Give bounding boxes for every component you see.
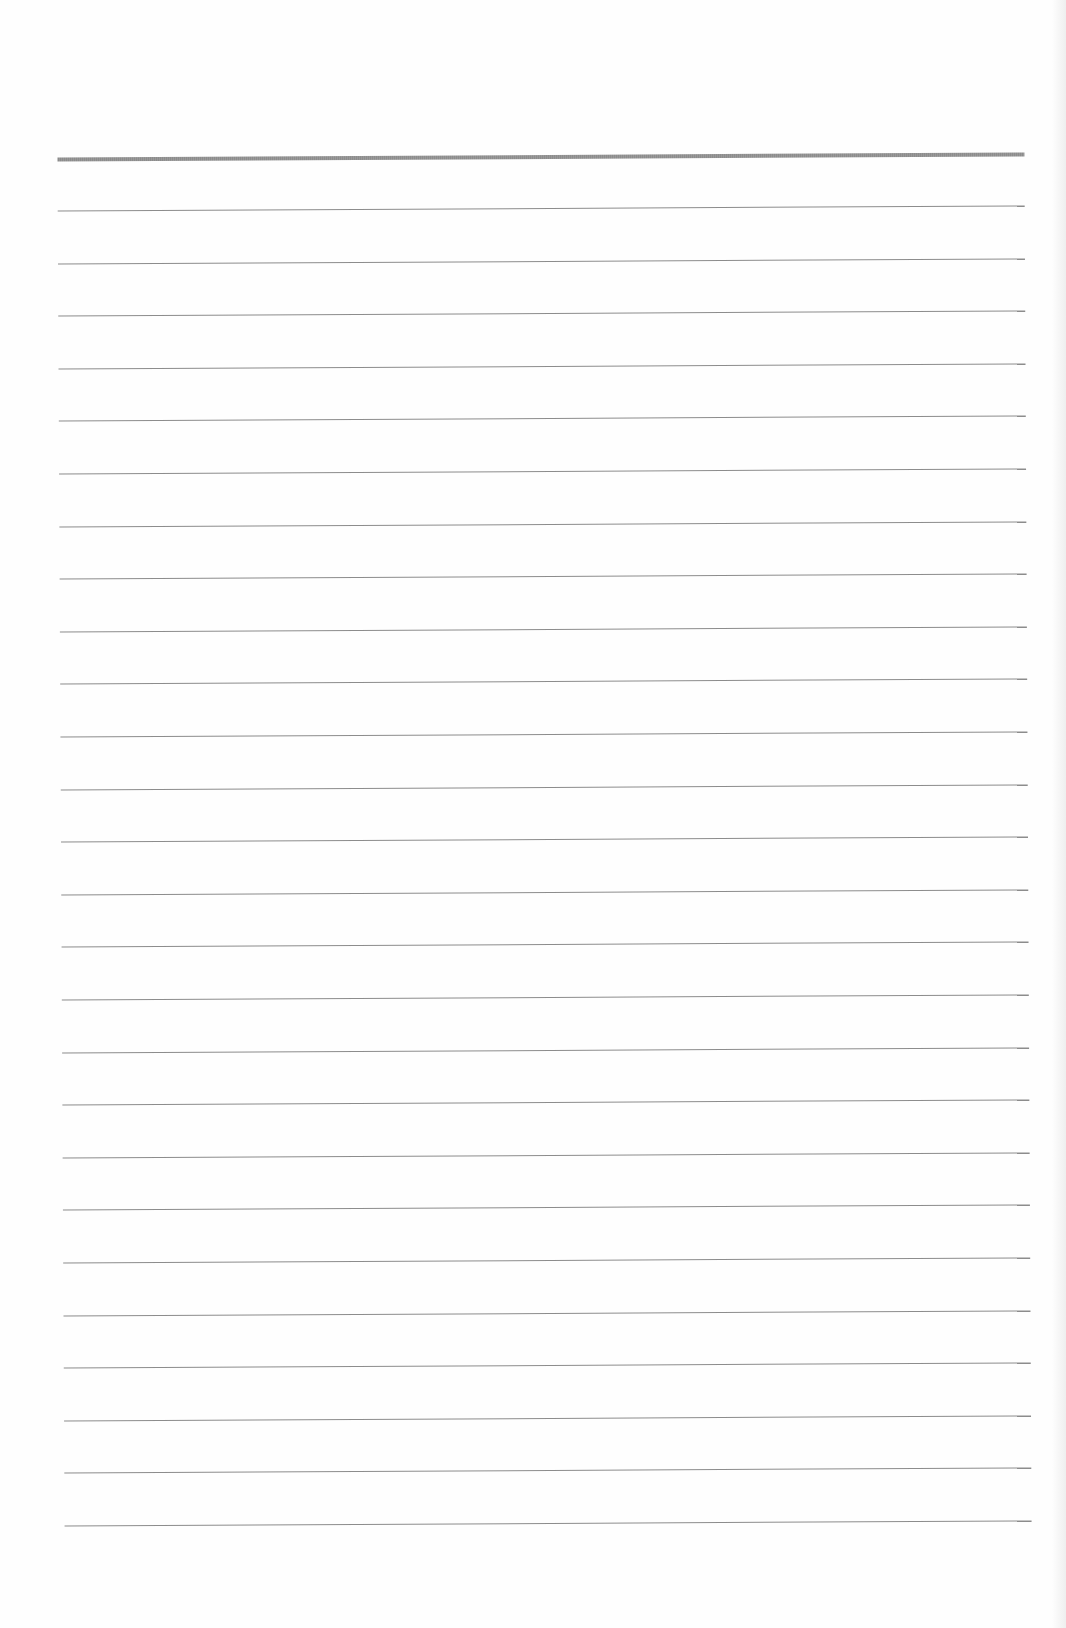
- lined-paper-page: [0, 0, 1066, 1628]
- ruled-line: [61, 836, 1028, 842]
- ruled-line: [59, 521, 1026, 527]
- ruled-line: [63, 1310, 1030, 1316]
- ruled-line: [59, 363, 1026, 369]
- ruled-line: [61, 784, 1028, 790]
- ruled-line: [64, 1362, 1031, 1368]
- ruled-line: [59, 415, 1026, 421]
- ruled-line: [58, 258, 1025, 264]
- ruled-line: [62, 1047, 1029, 1053]
- ruled-line: [61, 889, 1028, 895]
- ruled-line: [65, 1520, 1032, 1526]
- ruled-line: [64, 1467, 1031, 1473]
- ruled-line: [62, 994, 1029, 1000]
- ruled-line: [62, 1099, 1029, 1105]
- header-rule: [57, 152, 1024, 161]
- ruled-line: [63, 1204, 1030, 1210]
- page-edge-shadow: [1052, 0, 1066, 1628]
- ruled-line: [60, 573, 1027, 579]
- ruled-line: [60, 626, 1027, 632]
- ruled-line: [58, 205, 1025, 211]
- ruled-line: [60, 731, 1027, 737]
- ruled-lines: [0, 0, 1066, 1628]
- ruled-line: [59, 468, 1026, 474]
- ruled-line: [63, 1257, 1030, 1263]
- ruled-line: [63, 1152, 1030, 1158]
- ruled-line: [60, 678, 1027, 684]
- ruled-line: [64, 1415, 1031, 1421]
- ruled-line: [62, 941, 1029, 947]
- ruled-line: [58, 310, 1025, 316]
